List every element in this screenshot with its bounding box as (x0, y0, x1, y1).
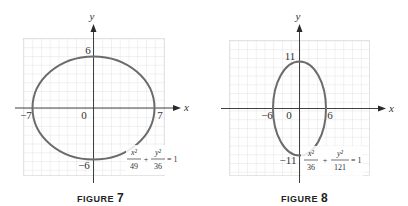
caption-number: 8 (321, 191, 328, 205)
eq-term1-den: 49 (130, 162, 138, 171)
y-axis-label: y (89, 10, 95, 22)
eq-equals: = 1 (167, 155, 178, 164)
y-pos-label: 11 (285, 50, 296, 62)
eq-term2-num: y² (154, 148, 162, 157)
caption-word: FIGURE (281, 194, 318, 204)
x-axis-arrow-icon (378, 106, 386, 112)
x-pos-label: 6 (327, 109, 333, 121)
x-neg-label: −7 (20, 109, 32, 121)
figure-7-plot: y x 0 −7 7 6 −6 x² 49 + y² 36 = 1 (0, 0, 204, 206)
figure-7: y x 0 −7 7 6 −6 x² 49 + y² 36 = 1 FIGURE… (0, 0, 204, 206)
eq-term2-den: 121 (334, 163, 346, 172)
x-axis-arrow-icon (173, 105, 181, 111)
figure-8: y x 0 −6 6 11 −11 x² 36 + y² 121 = 1 FIG… (204, 0, 408, 206)
caption-word: FIGURE (77, 194, 114, 204)
origin-label: 0 (286, 109, 292, 121)
figure-7-caption: FIGURE 7 (77, 191, 124, 205)
y-axis-label: y (295, 10, 301, 22)
origin-label: 0 (81, 109, 87, 121)
eq-term2-den: 36 (154, 162, 162, 171)
eq-term1-num: x² (307, 149, 315, 158)
figure-8-plot: y x 0 −6 6 11 −11 x² 36 + y² 121 = 1 (204, 0, 408, 206)
eq-term2-num: y² (336, 149, 344, 158)
y-axis-arrow-icon (91, 24, 97, 32)
y-neg-label: −11 (280, 154, 297, 166)
x-axis-label: x (183, 101, 189, 113)
x-pos-label: 7 (157, 109, 163, 121)
y-neg-label: −6 (78, 159, 90, 171)
x-axis-label: x (388, 102, 394, 114)
figure-8-caption: FIGURE 8 (281, 191, 328, 205)
eq-plus: + (144, 155, 149, 164)
caption-number: 7 (117, 191, 124, 205)
eq-plus: + (323, 156, 328, 165)
y-pos-label: 6 (85, 44, 91, 56)
x-neg-label: −6 (261, 109, 273, 121)
eq-term1-num: x² (130, 148, 138, 157)
y-axis-arrow-icon (297, 24, 303, 32)
eq-term1-den: 36 (307, 163, 315, 172)
equation: x² 36 + y² 121 = 1 (301, 146, 363, 176)
eq-equals: = 1 (351, 156, 362, 165)
equation: x² 49 + y² 36 = 1 (126, 145, 178, 175)
